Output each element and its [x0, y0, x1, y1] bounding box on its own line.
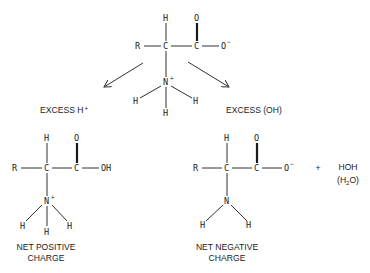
atom-h-right: H	[246, 220, 251, 230]
atom-h-top: H	[44, 133, 49, 143]
atom-h-right: H	[67, 221, 72, 231]
positive-charge: +	[170, 74, 174, 81]
positive-charge: +	[51, 193, 55, 200]
caption-charge: CHARGE	[28, 253, 65, 263]
atom-c-carboxyl: C	[74, 163, 79, 173]
atom-h-left: H	[133, 96, 138, 106]
right-molecule: R C C O − H O N H H NET NEGATIVE CHARGE	[193, 133, 294, 263]
arrow-left-icon	[104, 63, 143, 87]
arrow-right-icon	[188, 62, 229, 87]
top-molecule: R C C O − H O N + H H H	[133, 13, 231, 118]
bond	[206, 205, 223, 221]
atom-o-top: O	[74, 133, 79, 143]
atom-h-right: H	[193, 96, 198, 106]
caption-charge: CHARGE	[209, 253, 246, 263]
label-excess-oh: EXCESS (OH)	[226, 105, 282, 115]
atom-c-alpha: C	[224, 163, 229, 173]
bond	[231, 205, 247, 221]
atom-n: N	[163, 77, 168, 87]
bond	[52, 205, 67, 221]
bond	[171, 86, 192, 98]
formula-hoh: HOH	[338, 162, 357, 172]
atom-c-alpha: C	[44, 163, 49, 173]
atom-c-alpha: C	[163, 41, 168, 51]
atom-h-left: H	[200, 220, 205, 230]
label-excess-h: EXCESS H+	[40, 104, 88, 115]
atom-h-bottom: H	[163, 108, 168, 118]
atom-h-top: H	[163, 13, 168, 23]
atom-n: N	[224, 196, 229, 206]
atom-r: R	[12, 163, 18, 173]
negative-charge: −	[227, 38, 231, 45]
formula-h2o: (H2O)	[337, 175, 359, 186]
bond	[140, 86, 161, 98]
left-molecule: R C C OH H O N + H H H NET POSITIVE CHAR…	[12, 133, 111, 263]
negative-charge: −	[290, 160, 294, 167]
caption-net-negative: NET NEGATIVE	[196, 242, 259, 252]
atom-h-left: H	[20, 221, 25, 231]
atom-oh: OH	[101, 163, 111, 173]
caption-net-positive: NET POSITIVE	[16, 242, 75, 252]
atom-o-minus: O	[284, 163, 289, 173]
water-byproduct: + HOH (H2O)	[315, 162, 359, 186]
atom-c-carboxyl: C	[194, 41, 199, 51]
bond	[26, 205, 42, 221]
plus-sign: +	[315, 163, 320, 173]
atom-o-minus: O	[221, 41, 226, 51]
atom-n: N	[44, 196, 49, 206]
atom-r: R	[193, 163, 199, 173]
atom-h-top: H	[224, 133, 229, 143]
diagram-canvas: R C C O − H O N + H H H EXCESS H+ EXCESS…	[0, 0, 370, 273]
atom-o-top: O	[194, 13, 199, 23]
amino-acid-ionization-diagram: R C C O − H O N + H H H EXCESS H+ EXCESS…	[0, 0, 370, 273]
atom-r: R	[135, 41, 141, 51]
atom-h-bottom: H	[44, 227, 49, 237]
atom-c-carboxyl: C	[254, 163, 259, 173]
atom-o-top: O	[254, 133, 259, 143]
